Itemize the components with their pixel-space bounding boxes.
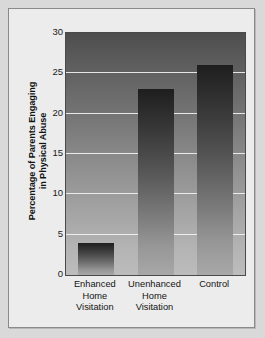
y-axis-tick-label: 30 xyxy=(52,27,63,37)
bar xyxy=(138,89,174,275)
y-axis-tick-label: 20 xyxy=(52,108,63,118)
x-axis-category-label: UnenhancedHomeVisitation xyxy=(125,279,185,314)
x-axis-category-labels: EnhancedHomeVisitationUnenhancedHomeVisi… xyxy=(65,279,246,323)
x-axis-label-line: Control xyxy=(184,279,244,291)
y-axis-tick-label: 25 xyxy=(52,67,63,77)
bar xyxy=(197,65,233,275)
y-axis-title-line-1: Percentage of Parents Engaging xyxy=(27,82,38,220)
y-axis-tick-label: 15 xyxy=(52,148,63,158)
x-axis-label-line: Home xyxy=(125,291,185,303)
y-axis-tick-label: 5 xyxy=(58,229,63,239)
x-axis-category-label: EnhancedHomeVisitation xyxy=(65,279,125,314)
y-axis-tick-labels: 051015202530 xyxy=(45,29,65,275)
x-axis-label-line: Unenhanced xyxy=(125,279,185,291)
x-axis-label-line: Visitation xyxy=(65,302,125,314)
y-axis-tick-label: 0 xyxy=(58,269,63,279)
plot-area xyxy=(65,32,246,276)
x-axis-category-label: Control xyxy=(184,279,244,291)
x-axis-label-line: Visitation xyxy=(125,302,185,314)
x-axis-label-line: Enhanced xyxy=(65,279,125,291)
y-axis-tick-label: 10 xyxy=(52,188,63,198)
x-axis-label-line: Home xyxy=(65,291,125,303)
bar xyxy=(78,243,114,275)
figure-panel: Percentage of Parents Engaging in Physic… xyxy=(8,8,255,328)
